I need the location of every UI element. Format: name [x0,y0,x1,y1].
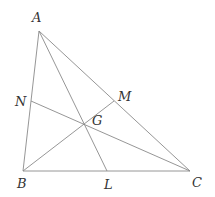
point-label-l: L [103,177,113,192]
point-label-b: B [16,176,27,191]
side-AC [39,31,190,171]
point-label-g: G [92,113,102,128]
triangle-diagram: ABCLMNG [0,0,215,197]
median-CN [31,101,190,171]
point-label-n: N [14,94,27,109]
point-label-m: M [117,89,132,104]
segments [23,31,190,171]
point-label-a: A [31,10,41,25]
median-AL [39,31,107,171]
point-label-c: C [192,175,202,190]
median-BM [23,101,114,171]
